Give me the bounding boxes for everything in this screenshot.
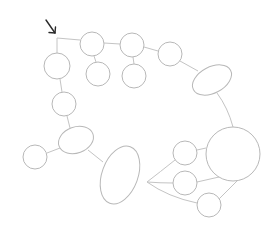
node-M <box>197 193 221 217</box>
edge-L-J <box>197 177 219 182</box>
edge-A-A1 <box>94 56 96 62</box>
edge-E-F <box>60 79 62 92</box>
edge-K-J <box>197 148 206 150</box>
diagram-canvas <box>0 0 275 232</box>
edge-G-I <box>88 150 103 162</box>
node-A1 <box>86 62 110 86</box>
node-J <box>206 127 260 181</box>
node-I <box>93 141 147 210</box>
edge-C-D <box>180 61 198 71</box>
start-arrow-icon <box>46 20 56 33</box>
node-B <box>120 33 144 57</box>
edge-F-G <box>67 116 70 128</box>
node-A <box>80 32 104 56</box>
edge-A-B <box>104 43 120 44</box>
edge-G-H <box>47 148 60 153</box>
node-F <box>52 92 76 116</box>
tree-diagram <box>0 0 275 232</box>
edges-layer <box>47 38 237 203</box>
edge-D-J <box>217 93 233 127</box>
node-E <box>44 53 70 79</box>
node-K <box>173 141 197 165</box>
nodes-layer <box>23 32 260 217</box>
edge-B-C <box>144 47 158 51</box>
node-L <box>173 171 197 195</box>
edge-I-K <box>147 160 175 182</box>
edge-root-A <box>57 38 80 40</box>
edge-I-L <box>147 182 173 183</box>
edge-B-B1 <box>133 57 134 64</box>
node-H <box>23 145 47 169</box>
node-C <box>158 42 182 66</box>
edge-M-J <box>219 181 237 199</box>
node-B1 <box>122 64 146 88</box>
node-D <box>187 59 236 102</box>
